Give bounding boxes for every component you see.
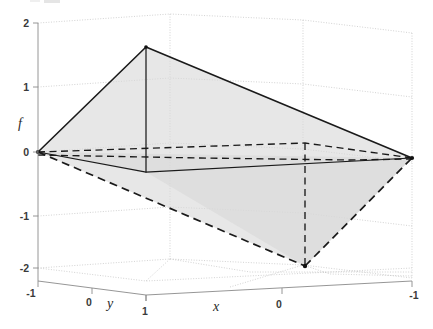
y-axis-title: y xyxy=(105,296,114,311)
y-tick-label-0: 0 xyxy=(86,296,92,308)
vertex-back-dip xyxy=(303,264,307,268)
upper-surface-fill xyxy=(38,47,412,158)
f-tick-label-2: 2 xyxy=(23,17,29,29)
3d-surface-plot: 2 1 0 -1 -2 f -1 0 1 1 xyxy=(0,0,433,329)
f-tick-label-1: 1 xyxy=(23,81,29,93)
gridline-f-minus-2 xyxy=(38,259,412,278)
f-tick-label-minus-1: -1 xyxy=(20,210,29,222)
gridline-f-2 xyxy=(38,14,412,33)
f-axis-group: 2 1 0 -1 -2 f xyxy=(18,17,38,281)
x-axis-spine xyxy=(146,281,412,295)
bottom-axes-group: -1 0 1 1 0 -1 y x xyxy=(26,281,418,317)
floor-gridline-a xyxy=(38,268,412,281)
vertex-front-peak xyxy=(144,45,148,49)
top-edge-artifact xyxy=(30,0,60,3)
x-tick-label-0: 0 xyxy=(276,298,282,310)
f-tick-label-minus-2: -2 xyxy=(20,262,29,274)
plot-root: 2 1 0 -1 -2 f -1 0 1 1 xyxy=(0,0,433,329)
floor-gridline-d xyxy=(146,259,170,281)
x-tick-label-minus-1: -1 xyxy=(409,289,418,301)
vertex-right-corner xyxy=(410,156,414,160)
floor-gridline-e xyxy=(230,265,303,287)
f-tick-label-0: 0 xyxy=(23,146,29,158)
y-tick-label-minus-1: -1 xyxy=(26,287,35,299)
f-axis-title: f xyxy=(18,116,24,131)
x-axis-title: x xyxy=(212,299,220,314)
